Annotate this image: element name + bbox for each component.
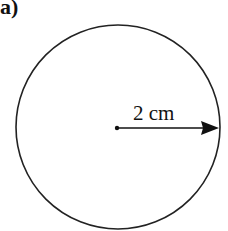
- radius-arrowhead-icon: [201, 121, 219, 135]
- circle-diagram: [0, 0, 228, 231]
- radius-label: 2 cm: [133, 101, 174, 126]
